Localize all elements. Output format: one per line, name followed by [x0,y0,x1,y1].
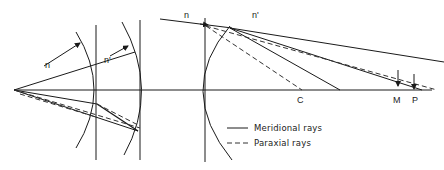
paraxial-ray-refracted [97,104,140,126]
meridional-ray-extended [230,28,444,62]
upper-ray [14,52,135,90]
paraxial-ray-1 [14,90,140,128]
incoming-arrow [200,24,208,25]
spherical-surface-2 [122,22,142,155]
meridional-ray-refracted [97,104,138,131]
optics-diagram: n n' n n' C M P [0,0,444,170]
label-n-left: n [45,60,50,70]
legend-paraxial-label: Paraxial rays [254,138,311,148]
incoming-ray [160,19,232,28]
label-C: C [297,95,304,105]
legend: Meridional rays Paraxial rays [227,123,323,148]
label-M: M [393,95,401,105]
label-n-prime-right: n' [252,10,259,20]
left-refraction-diagram: n n' [14,20,160,160]
spherical-surface-right [203,26,232,160]
legend-meridional-label: Meridional rays [254,123,323,133]
label-n-right: n [184,10,189,20]
meridional-ray-1 [14,90,97,104]
label-P: P [412,95,418,105]
radius-arrow-n-prime [110,46,128,56]
